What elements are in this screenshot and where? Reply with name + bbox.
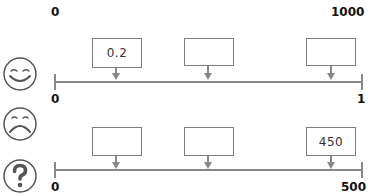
line1-max-label: 1 bbox=[357, 93, 365, 105]
answer-box[interactable] bbox=[184, 38, 234, 66]
answer-box[interactable] bbox=[184, 127, 234, 156]
top-scale-min-label: 0 bbox=[51, 6, 59, 18]
line1-axis bbox=[55, 81, 363, 83]
line2-right-tick bbox=[361, 162, 363, 178]
question-mark-icon bbox=[2, 158, 38, 194]
line2-axis bbox=[55, 169, 363, 171]
line2-min-label: 0 bbox=[51, 181, 59, 193]
answer-box[interactable] bbox=[306, 38, 356, 66]
line2-max-label: 500 bbox=[341, 181, 366, 193]
answer-box[interactable]: 450 bbox=[306, 127, 356, 156]
answer-box[interactable] bbox=[92, 127, 142, 156]
sad-face-icon bbox=[2, 106, 38, 142]
smiley-face-icon bbox=[2, 56, 38, 92]
line1-right-tick bbox=[361, 74, 363, 90]
line1-min-label: 0 bbox=[51, 93, 59, 105]
answer-box[interactable]: 0.2 bbox=[92, 38, 142, 68]
top-scale-max-label: 1000 bbox=[331, 6, 364, 18]
